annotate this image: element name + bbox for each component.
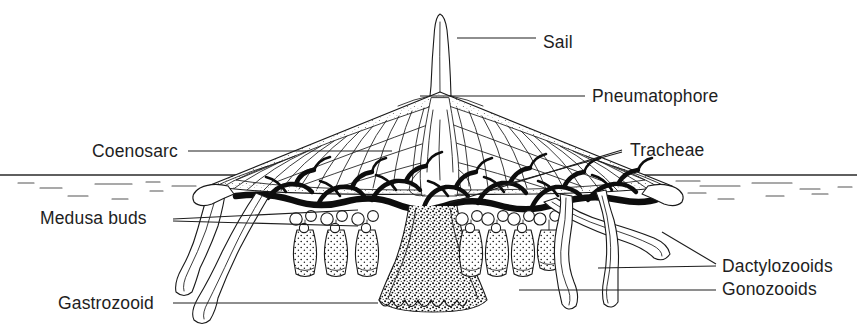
leader-dactylozooids-upper: [662, 232, 716, 264]
medusa-bud: [491, 223, 500, 232]
gonozooid-fill: [324, 230, 347, 277]
gonozooid-fill: [459, 230, 482, 277]
medusa-buds-left: [290, 211, 379, 233]
label-pneumatophore: Pneumatophore: [592, 86, 718, 106]
medusa-bud: [368, 211, 379, 222]
medusa-bud: [498, 211, 509, 222]
gonozooid-group-left: [290, 211, 379, 277]
medusa-bud: [337, 211, 348, 222]
label-medusa-buds: Medusa buds: [40, 208, 147, 228]
medusa-bud: [352, 213, 364, 225]
label-dactylozooids: Dactylozooids: [722, 256, 833, 276]
gonozooid-fill: [511, 230, 534, 277]
medusa-bud: [517, 223, 526, 232]
medusa-bud: [465, 223, 474, 232]
medusa-buds-right: [456, 211, 560, 233]
medusa-bud: [508, 213, 520, 225]
anatomy-figure: Sail Pneumatophore Coenosarc Tracheae Me…: [0, 0, 857, 330]
dactylozooid-body: [193, 184, 234, 205]
gonozooid-group-right: [456, 211, 561, 277]
medusa-bud: [524, 211, 535, 222]
chamber-shell-right: [449, 106, 645, 190]
label-gonozooids: Gonozooids: [722, 279, 817, 299]
medusa-bud: [290, 213, 302, 225]
gonozooid-fill: [355, 230, 378, 277]
label-coenosarc: Coenosarc: [92, 141, 178, 161]
medusa-bud: [534, 213, 546, 225]
medusa-bud: [361, 223, 370, 232]
sail-outline: [430, 14, 451, 96]
medusa-bud: [472, 211, 483, 222]
gonozooid-fill: [485, 230, 508, 277]
gonozooid-fill: [293, 230, 316, 277]
label-sail: Sail: [543, 32, 573, 52]
velella-diagram: Sail Pneumatophore Coenosarc Tracheae Me…: [0, 0, 857, 330]
medusa-bud: [482, 213, 494, 225]
label-gastrozooid: Gastrozooid: [58, 293, 154, 313]
label-tracheae: Tracheae: [630, 140, 704, 160]
medusa-bud: [456, 213, 468, 225]
medusa-bud: [321, 213, 333, 225]
dactylozooid: [193, 184, 234, 205]
